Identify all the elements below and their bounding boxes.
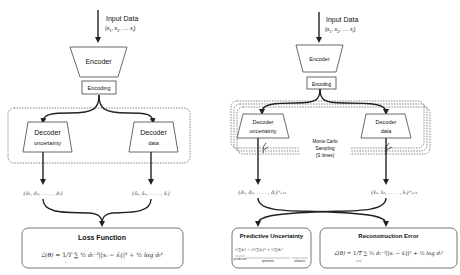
decoder-data-label-2: data (148, 140, 160, 146)
input-set-label: {x1, x2, .... xt} (105, 25, 136, 33)
encoder-label-right: Encoder (309, 56, 330, 62)
branch-to-uncertainty-right (262, 89, 320, 112)
decoder-data-label-right-1: Decoder (376, 119, 397, 125)
reconstruction-error-formula: ℒ(θ) = 1/T ∑ ½ σ̂ᵢ⁻²||xᵢ − x̂ᵢ||² + ½ lo… (334, 250, 444, 257)
underbrace-label-predictive: predictive (234, 257, 247, 261)
predictive-uncertainty-formula: ¹⁄ₛ∑x̂ₛ² − (¹⁄ₛ∑x̂ₛ)² + ¹⁄ₛ∑σ̂ₛ² (235, 247, 283, 252)
loss-function-formula: ℒ(θ) = 1/T ∑ ½ σ̂ᵢ⁻²||xᵢ − x̂ᵢ||² + ½ lo… (41, 251, 163, 259)
xhat-set: {x̂₁, x̂₂, . . . . , x̂ₜ} (132, 191, 171, 196)
decoder-uncertainty-label-2: uncertainty (34, 140, 61, 146)
cross-curve-to-predictive (258, 198, 386, 224)
sigma-set: {σ̂₁, σ̂₂, . . . . , σ̂ₜ} (23, 191, 64, 196)
input-data-label-right: Input Data (326, 16, 358, 24)
decoder-uncertainty-label-right-2: uncertainty (250, 128, 277, 134)
merge-curve-right (102, 199, 151, 224)
input-data-label: Input Data (106, 15, 138, 23)
decoder-uncertainty-block-right (237, 114, 289, 138)
left-panel: Input Data {x1, x2, .... xt} Encoder Enc… (8, 10, 190, 268)
encoding-label: Encoding (88, 85, 111, 91)
loss-sum-index: i (65, 260, 66, 264)
decoder-uncertainty-label-right-1: Decoder (253, 119, 274, 125)
encoding-label-right: Encoding (312, 82, 332, 87)
mc-label-3: (S times) (316, 153, 335, 158)
merge-curve-left (43, 199, 102, 223)
underbrace-label-aleatoric: aleatoric (294, 259, 306, 263)
xhat-set-right: {x̂₁, x̂₂, . . . . , x̂ₜ}ᴺₛ₌₁ (370, 190, 417, 195)
input-set-label-right: {x1, x2, .... xt} (325, 26, 356, 34)
underbrace-label-epistemic: epistemic (262, 259, 275, 263)
mc-label-2: Sampling (315, 146, 335, 151)
decoder-data-label-right-2: data (381, 128, 393, 134)
decoder-data-block (129, 122, 178, 152)
mc-label-1: Monte Carlo (312, 139, 337, 144)
decoder-data-label-1: Decoder (140, 129, 167, 136)
sigma-set-right: {σ̂₁, σ̂₂, . . . . , σ̂ₜ}ᴺₛ₌₁ (238, 190, 287, 195)
decoder-data-block-right (361, 114, 411, 138)
encoder-label: Encoder (85, 58, 112, 65)
reconstruction-error-title: Reconstruction Error (358, 233, 419, 239)
decoder-uncertainty-label-1: Decoder (34, 129, 61, 136)
branch-to-data-right (320, 89, 386, 112)
reconstruction-sum-index: t=1 (356, 259, 362, 263)
loss-function-title: Loss Function (78, 234, 126, 241)
diagram-canvas: Input Data {x1, x2, .... xt} Encoder Enc… (0, 0, 460, 275)
decoder-uncertainty-block (23, 122, 72, 152)
predictive-uncertainty-title: Predictive Uncertainty (240, 233, 304, 239)
right-panel: Input Data {x1, x2, .... xt} Encoder Enc… (231, 12, 457, 268)
